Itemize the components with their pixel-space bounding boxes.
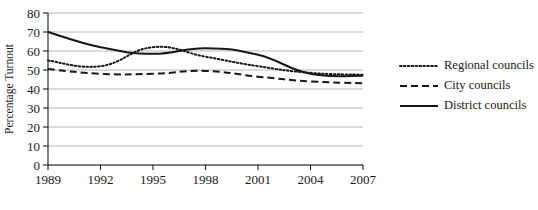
legend-label-city-councils: City councils (444, 78, 510, 92)
y-tick-label: 30 (27, 101, 40, 116)
grid-lines (48, 13, 363, 165)
chart-canvas: 01020304050607080 1989199219951998200120… (0, 0, 538, 210)
legend-label-district-councils: District councils (444, 98, 526, 112)
x-tick-label: 1989 (35, 172, 61, 187)
x-tick-label: 1992 (88, 172, 114, 187)
x-axis: 1989199219951998200120042007 (35, 165, 377, 187)
line-chart: 01020304050607080 1989199219951998200120… (0, 0, 538, 210)
y-tick-label: 50 (27, 63, 40, 78)
x-tick-label: 1998 (193, 172, 219, 187)
y-tick-label: 60 (27, 44, 40, 59)
y-tick-label: 70 (27, 25, 40, 40)
chart-legend: Regional councilsCity councilsDistrict c… (400, 58, 534, 112)
y-tick-label: 0 (34, 158, 41, 173)
y-tick-label: 20 (27, 120, 40, 135)
y-tick-label: 80 (27, 6, 40, 21)
y-tick-label: 40 (27, 82, 40, 97)
y-axis-title: Percentage Turnout (3, 43, 16, 134)
x-tick-label: 2001 (245, 172, 271, 187)
x-tick-label: 1995 (140, 172, 166, 187)
y-axis: 01020304050607080 (27, 6, 48, 173)
legend-label-regional-councils: Regional councils (444, 58, 534, 72)
series-group (48, 32, 363, 83)
x-tick-label: 2007 (350, 172, 377, 187)
y-tick-label: 10 (27, 139, 40, 154)
x-tick-label: 2004 (298, 172, 325, 187)
series-line-city-councils (48, 69, 363, 83)
